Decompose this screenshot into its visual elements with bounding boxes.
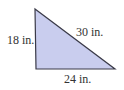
right-triangle (35, 9, 115, 69)
vertical-leg-label: 18 in. (7, 34, 34, 46)
horizontal-leg-label: 24 in. (64, 73, 91, 85)
hypotenuse-label: 30 in. (76, 26, 103, 38)
triangle-diagram: 18 in. 30 in. 24 in. (0, 0, 124, 90)
